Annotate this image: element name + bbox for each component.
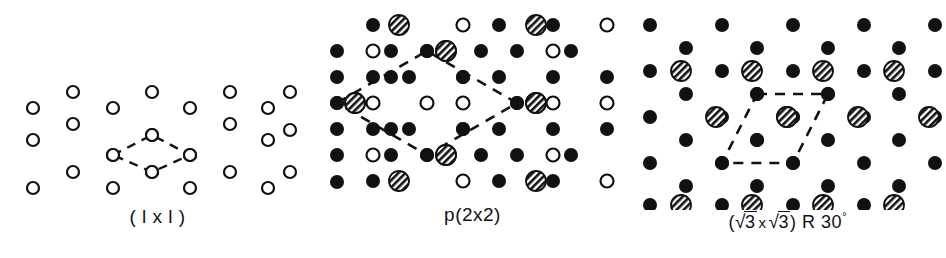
- unit-cell-adatom-r30: [777, 107, 797, 127]
- surface-lattice-figure: ( l x l ): [0, 0, 946, 258]
- degree-symbol: °: [842, 210, 847, 224]
- panel-1x1: ( l x l ): [0, 0, 315, 258]
- lattice-diagram-p2x2: [315, 0, 630, 210]
- unit-cell-center-site-p2x2: [421, 97, 434, 110]
- caption-p2x2: p(2x2): [315, 204, 630, 226]
- unit-cell-vertices-r30: [715, 87, 835, 170]
- panel-r30: (√3x√3) R 30°: [630, 0, 946, 258]
- open-site-lattice-p2x2: [367, 19, 614, 188]
- caption-text-p2x2: p(2x2): [444, 204, 501, 225]
- caption-paren-close: ): [790, 212, 797, 232]
- lattice-diagram-1x1: [0, 0, 315, 210]
- radical-number-b: 3: [778, 211, 791, 233]
- unit-cell-vertices-1x1: [107, 129, 196, 178]
- caption-1x1: ( l x l ): [0, 206, 315, 228]
- caption-text-1x1: ( l x l ): [129, 206, 185, 227]
- caption-r30: (√3x√3) R 30°: [630, 210, 946, 233]
- caption-x-separator: x: [757, 214, 769, 231]
- panel-p2x2: p(2x2): [315, 0, 630, 258]
- rotation-label: R: [802, 212, 816, 232]
- lattice-diagram-r30: [630, 0, 946, 210]
- rotation-value: 30: [821, 212, 842, 232]
- unit-cell-parallelogram-r30: [722, 94, 828, 163]
- radical-number-a: 3: [744, 211, 757, 233]
- radical-b: √3: [769, 211, 790, 233]
- radical-a: √3: [735, 211, 756, 233]
